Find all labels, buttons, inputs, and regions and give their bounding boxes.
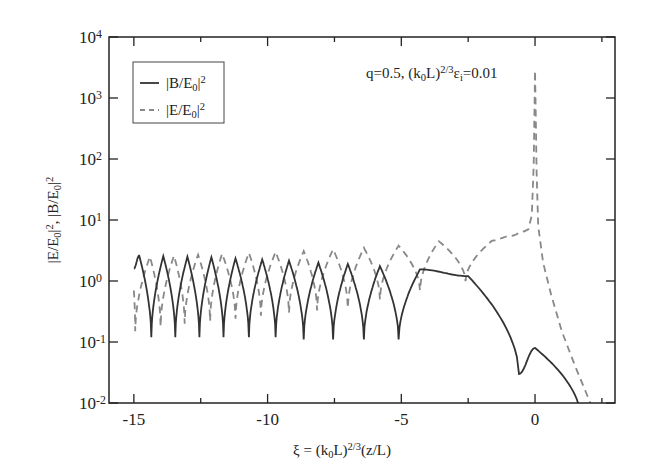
- axis-labels: q=0.5, (k0L)2/3εi=0.01ξ = (k0L)2/3(z/L)|…: [44, 64, 497, 460]
- x-tick-label: -5: [394, 410, 408, 429]
- y-tick-label: 10-1: [79, 332, 106, 352]
- y-tick-label: 104: [79, 27, 102, 47]
- x-tick-label: 0: [531, 410, 540, 429]
- legend-label: |E/E0|2: [166, 101, 205, 120]
- y-tick-label: 100: [79, 271, 102, 291]
- y-axis-label: |E/E0|2, |B/E0|2: [44, 177, 63, 263]
- chart: -15-10-5010-210-1100101102103104 |B/E0|2…: [0, 0, 653, 470]
- x-tick-label: -15: [123, 410, 146, 429]
- series-B-solid: [134, 256, 581, 405]
- y-tick-label: 10-2: [79, 393, 106, 413]
- x-axis-label: ξ = (k0L)2/3(z/L): [293, 441, 391, 460]
- y-tick-label: 102: [79, 149, 102, 169]
- annotation-text: q=0.5, (k0L)2/3εi=0.01: [366, 64, 498, 83]
- legend: |B/E0|2|E/E0|2: [133, 62, 224, 123]
- y-tick-label: 101: [79, 210, 102, 230]
- x-tick-label: -10: [256, 410, 279, 429]
- y-tick-label: 103: [79, 88, 102, 108]
- legend-label: |B/E0|2: [166, 74, 206, 93]
